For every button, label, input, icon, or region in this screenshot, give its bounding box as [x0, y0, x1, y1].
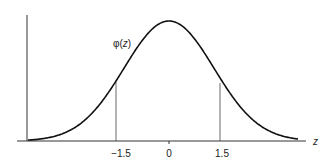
tick-label-neg-1-5: −1.5	[111, 148, 131, 159]
tick-label-0: 0	[166, 148, 172, 159]
normal-distribution-diagram: φ(z) z −1.5 0 1.5	[0, 0, 333, 163]
curve-label: φ(z)	[113, 38, 131, 49]
tick-label-pos-1-5: 1.5	[215, 148, 229, 159]
x-axis-label: z	[312, 136, 318, 147]
density-curve	[28, 21, 298, 140]
